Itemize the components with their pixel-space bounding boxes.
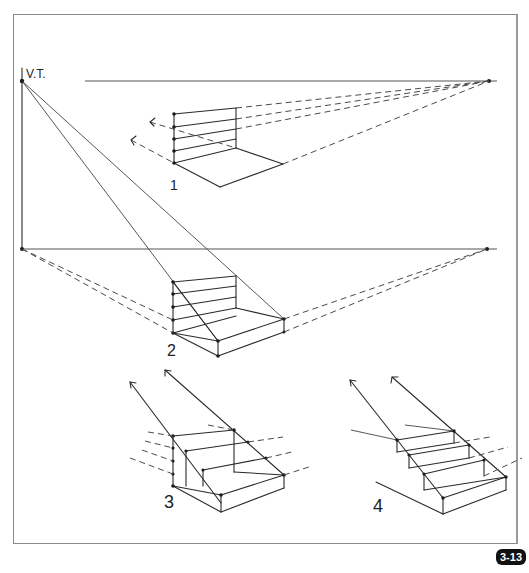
step-label-3: 3 <box>164 492 174 512</box>
figure-2-step-layout: 2 <box>22 249 487 359</box>
vertical-trace: V.T. <box>20 67 46 248</box>
step-label-2: 2 <box>167 342 176 359</box>
vt-label: V.T. <box>26 67 46 81</box>
horizon-line-middle <box>20 247 497 251</box>
horizon-line-top <box>85 79 497 83</box>
figure-3-step-layout: 3 <box>130 370 312 512</box>
figure-1-step-layout: 1 <box>131 81 489 193</box>
step-label-1: 1 <box>170 177 178 193</box>
figure-number-badge: 3-13 <box>496 549 526 565</box>
step-label-4: 4 <box>373 496 383 516</box>
figure-4-stairs: 4 <box>350 377 522 516</box>
perspective-stairs-diagram: V.T. <box>0 0 529 573</box>
